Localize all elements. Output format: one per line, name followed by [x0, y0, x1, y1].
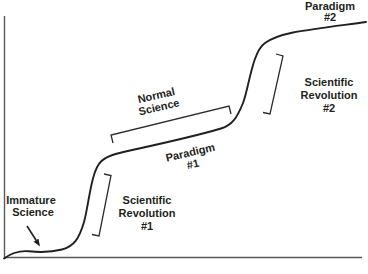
label-scientific-revolution-2-line2: Revolution [301, 89, 358, 101]
label-scientific-revolution-1-line1: Scientific [123, 194, 172, 206]
bracket-scientific-revolution-1 [92, 174, 111, 236]
label-scientific-revolution-2: Scientific Revolution #2 [301, 76, 358, 114]
bracket-scientific-revolution-2 [263, 54, 283, 114]
label-paradigm-1-line2: #1 [186, 157, 201, 171]
label-scientific-revolution-1-line2: Revolution [119, 207, 176, 219]
label-paradigm-1: Paradigm #1 [164, 141, 218, 176]
label-scientific-revolution-1-line3: #1 [141, 220, 153, 232]
label-scientific-revolution-1: Scientific Revolution #1 [119, 194, 176, 232]
immature-science-arrow [27, 226, 40, 247]
diagram-canvas: Paradigm #2 Scientific Revolution #2 Nor… [0, 0, 368, 274]
label-immature-science-line1: Immature [6, 194, 56, 206]
bracket-normal-science [111, 106, 231, 143]
label-paradigm-2: Paradigm #2 [305, 0, 355, 23]
label-scientific-revolution-2-line1: Scientific [305, 76, 354, 88]
label-immature-science-line2: Science [12, 206, 54, 218]
label-immature-science: Immature Science [6, 194, 56, 218]
kuhn-cycle-diagram: Paradigm #2 Scientific Revolution #2 Nor… [0, 0, 368, 274]
label-normal-science: Normal Science [135, 85, 181, 118]
label-paradigm-2-line2: #2 [324, 11, 336, 23]
progress-curve [4, 22, 366, 259]
label-scientific-revolution-2-line3: #2 [323, 102, 335, 114]
